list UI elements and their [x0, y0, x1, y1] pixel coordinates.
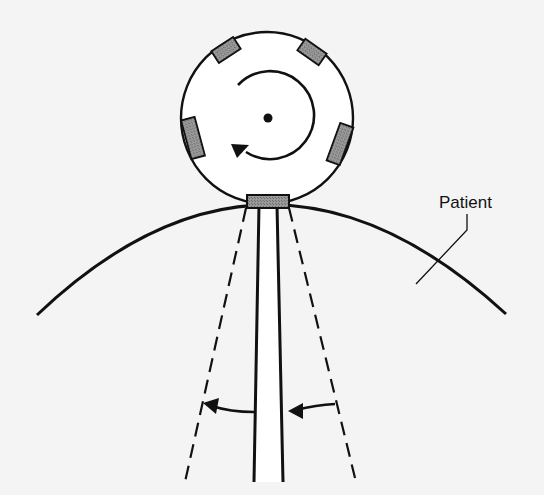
diagram-canvas	[0, 0, 544, 495]
gantry-wheel	[181, 32, 353, 208]
beam	[254, 205, 283, 482]
active-source	[247, 195, 289, 208]
left-collimation-arrow	[212, 406, 254, 412]
right-arrowhead-icon	[288, 403, 303, 419]
left-arrowhead-icon	[203, 398, 219, 414]
rotation-center-dot	[264, 114, 273, 123]
patient-label: Patient	[439, 193, 492, 213]
